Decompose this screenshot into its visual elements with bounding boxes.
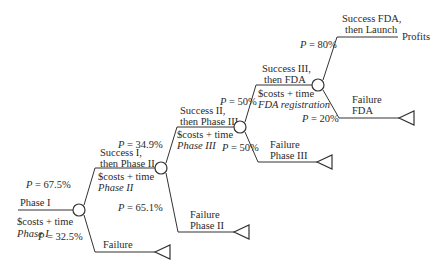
chance-node-icon <box>73 204 85 216</box>
success-2-label2: then Phase III <box>180 116 239 127</box>
root-cost-line1: $costs + time <box>17 216 73 227</box>
terminal-triangle-icon <box>234 225 249 239</box>
success-3-cost2: FDA registration <box>257 99 330 110</box>
success-2-cost2: Phase III <box>176 140 216 151</box>
outcome-profits: Profits <box>402 31 430 42</box>
failure-2-label1: Failure <box>190 209 220 220</box>
failure-2-prob: P = 65.1% <box>117 202 163 213</box>
failure-1-label: Failure <box>103 239 133 250</box>
failure-3-label2: Phase III <box>270 150 308 161</box>
decision-tree: Phase I $costs + time Phase I P = 67.5% … <box>0 0 444 278</box>
terminal-triangle-icon <box>317 155 332 169</box>
success-1-prob: P = 67.5% <box>25 179 71 190</box>
success-fda-prob: P = 80% <box>299 39 337 50</box>
success-3-prob: P = 50% <box>219 96 257 107</box>
success-3-label2: then FDA <box>264 74 306 85</box>
failure-2-label2: Phase II <box>190 220 225 231</box>
terminal-triangle-icon <box>399 111 414 125</box>
failure-1-prob: P = 32.5% <box>37 231 83 242</box>
failure-fda-label2: FDA <box>352 105 373 116</box>
success-fda-label1: Success FDA, <box>342 13 402 24</box>
failure-3-label1: Failure <box>270 139 300 150</box>
success-2-prob: P = 34.9% <box>117 139 163 150</box>
chance-node-icon <box>234 121 246 133</box>
success-3-cost1: $costs + time <box>258 88 314 99</box>
success-fda-label2: then Launch <box>345 24 398 35</box>
root-label: Phase I <box>20 197 51 208</box>
success-1-cost2: Phase II <box>97 182 134 193</box>
success-1-cost1: $costs + time <box>98 171 154 182</box>
chance-node-icon <box>155 162 167 174</box>
success-3-label1: Success III, <box>262 63 311 74</box>
success-2-label1: Success II, <box>180 105 226 116</box>
success-2-cost1: $costs + time <box>177 129 233 140</box>
terminal-triangle-icon <box>155 245 170 259</box>
success-1-label2: then Phase II <box>100 158 155 169</box>
chance-node-icon <box>312 79 324 91</box>
failure-3-prob: P = 50% <box>221 142 259 153</box>
failure-fda-label1: Failure <box>352 94 382 105</box>
failure-fda-prob: P = 20% <box>301 113 339 124</box>
